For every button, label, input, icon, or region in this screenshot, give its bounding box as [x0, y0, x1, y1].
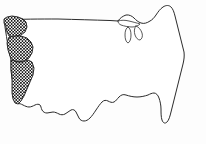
us-map-svg — [0, 0, 206, 144]
lake-michigan — [125, 27, 131, 43]
us-map-figure — [0, 0, 206, 144]
